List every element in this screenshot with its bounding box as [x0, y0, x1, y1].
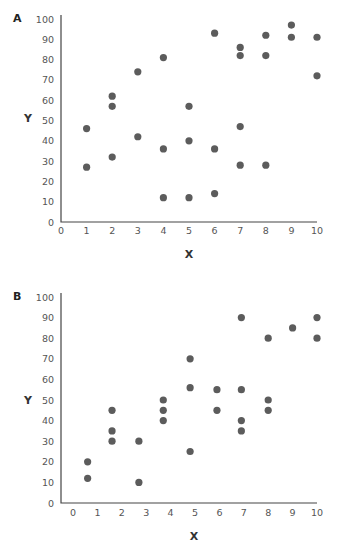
data-point — [135, 438, 142, 445]
data-point — [313, 34, 320, 41]
data-point — [160, 396, 167, 403]
y-tick-label: 40 — [42, 135, 54, 146]
y-tick-label: 100 — [36, 292, 54, 303]
x-tick-label: 10 — [311, 225, 323, 236]
data-point — [84, 475, 91, 482]
data-point — [185, 137, 192, 144]
x-tick-label: 6 — [212, 225, 218, 236]
y-tick-label: 70 — [42, 74, 54, 85]
x-tick-label: 5 — [192, 507, 198, 518]
x-tick-label: 0 — [70, 507, 76, 518]
data-point — [213, 407, 220, 414]
data-point — [211, 190, 218, 197]
y-tick-label: 100 — [36, 14, 54, 25]
chart-a: 0102030405060708090100012345678910AYX — [13, 12, 323, 261]
y-tick-label: 60 — [42, 374, 54, 385]
y-tick-label: 70 — [42, 353, 54, 364]
x-tick-label: 9 — [288, 225, 294, 236]
y-tick-label: 20 — [42, 176, 54, 187]
y-tick-label: 0 — [48, 217, 54, 228]
data-point — [238, 386, 245, 393]
data-point — [237, 162, 244, 169]
y-tick-label: 50 — [42, 395, 54, 406]
data-point — [238, 427, 245, 434]
y-tick-label: 80 — [42, 54, 54, 65]
y-tick-label: 0 — [48, 498, 54, 509]
x-tick-label: 4 — [160, 225, 166, 236]
data-point — [238, 417, 245, 424]
y-tick-label: 10 — [42, 196, 54, 207]
data-point — [288, 34, 295, 41]
panel-label: A — [13, 12, 22, 25]
data-point — [160, 194, 167, 201]
x-tick-label: 7 — [241, 507, 247, 518]
data-point — [313, 335, 320, 342]
x-tick-label: 3 — [143, 507, 149, 518]
y-tick-label: 30 — [42, 156, 54, 167]
data-point — [109, 93, 116, 100]
x-tick-label: 1 — [84, 225, 90, 236]
y-tick-label: 90 — [42, 34, 54, 45]
y-tick-label: 40 — [42, 415, 54, 426]
x-tick-label: 7 — [237, 225, 243, 236]
data-point — [185, 194, 192, 201]
data-point — [237, 52, 244, 59]
data-point — [262, 52, 269, 59]
y-tick-label: 30 — [42, 436, 54, 447]
x-axis-label: X — [190, 530, 199, 543]
y-axis-label: Y — [23, 112, 33, 125]
data-point — [83, 164, 90, 171]
data-point — [237, 123, 244, 130]
data-point — [211, 30, 218, 37]
x-tick-label: 0 — [58, 225, 64, 236]
x-tick-label: 4 — [168, 507, 174, 518]
y-tick-label: 10 — [42, 477, 54, 488]
panel-label: B — [13, 290, 21, 303]
x-tick-label: 10 — [311, 507, 323, 518]
y-axis-label: Y — [23, 394, 33, 407]
x-tick-label: 6 — [216, 507, 222, 518]
data-point — [83, 125, 90, 132]
data-point — [108, 438, 115, 445]
data-point — [187, 448, 194, 455]
data-point — [313, 314, 320, 321]
data-point — [185, 103, 192, 110]
data-point — [84, 458, 91, 465]
data-point — [265, 407, 272, 414]
y-tick-label: 60 — [42, 95, 54, 106]
y-tick-label: 90 — [42, 312, 54, 323]
data-point — [108, 427, 115, 434]
x-tick-label: 3 — [135, 225, 141, 236]
data-point — [109, 153, 116, 160]
data-point — [262, 32, 269, 39]
data-point — [187, 355, 194, 362]
chart-b: 0102030405060708090100012345678910BYX — [13, 290, 323, 543]
x-tick-label: 8 — [265, 507, 271, 518]
data-point — [213, 386, 220, 393]
data-point — [313, 72, 320, 79]
y-tick-label: 50 — [42, 115, 54, 126]
data-point — [160, 407, 167, 414]
axes — [61, 15, 317, 222]
y-tick-label: 80 — [42, 333, 54, 344]
data-point — [108, 407, 115, 414]
x-tick-label: 2 — [119, 507, 125, 518]
x-tick-label: 1 — [94, 507, 100, 518]
y-tick-label: 20 — [42, 456, 54, 467]
x-tick-label: 9 — [290, 507, 296, 518]
x-axis-label: X — [185, 248, 194, 261]
data-point — [160, 145, 167, 152]
axes — [61, 293, 317, 503]
data-point — [134, 133, 141, 140]
data-point — [238, 314, 245, 321]
x-tick-label: 2 — [109, 225, 115, 236]
data-point — [160, 54, 167, 61]
x-tick-label: 5 — [186, 225, 192, 236]
data-point — [262, 162, 269, 169]
data-point — [265, 396, 272, 403]
scatter-figure: 0102030405060708090100012345678910AYX 01… — [0, 0, 343, 555]
data-point — [134, 68, 141, 75]
data-point — [135, 479, 142, 486]
data-point — [160, 417, 167, 424]
data-point — [288, 21, 295, 28]
